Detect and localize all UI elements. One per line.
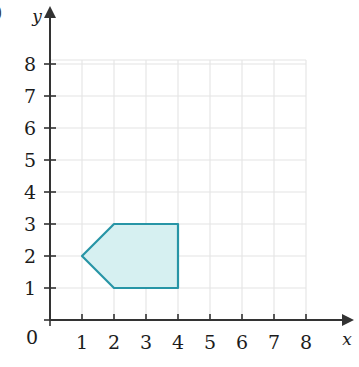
coordinate-grid-figure: 01234567812345678xy ) bbox=[0, 0, 359, 367]
y-tick-label-7: 7 bbox=[24, 85, 36, 107]
x-tick-label-3: 3 bbox=[140, 331, 152, 353]
x-axis-arrow-icon bbox=[342, 314, 354, 326]
y-axis-name: y bbox=[31, 6, 42, 26]
plotted-shapes bbox=[82, 224, 178, 288]
axis-tick-labels: 01234567812345678xy bbox=[24, 6, 352, 353]
x-tick-label-6: 6 bbox=[236, 331, 248, 353]
x-tick-label-8: 8 bbox=[300, 331, 312, 353]
x-axis-name: x bbox=[342, 329, 352, 349]
x-tick-label-5: 5 bbox=[204, 331, 216, 353]
x-tick-label-4: 4 bbox=[172, 331, 184, 353]
y-tick-label-5: 5 bbox=[24, 149, 36, 171]
shape-pentagon bbox=[82, 224, 178, 288]
y-tick-label-3: 3 bbox=[24, 213, 36, 235]
axes bbox=[44, 6, 354, 326]
y-tick-label-6: 6 bbox=[24, 117, 36, 139]
y-tick-label-4: 4 bbox=[24, 181, 36, 203]
y-tick-label-1: 1 bbox=[24, 277, 36, 299]
y-axis-arrow-icon bbox=[44, 6, 56, 18]
origin-label: 0 bbox=[26, 326, 38, 348]
plot-svg: 01234567812345678xy bbox=[0, 0, 359, 367]
x-tick-label-1: 1 bbox=[76, 331, 88, 353]
y-tick-label-2: 2 bbox=[24, 245, 36, 267]
y-tick-label-8: 8 bbox=[24, 53, 36, 75]
x-tick-label-7: 7 bbox=[268, 331, 280, 353]
svg-text:): ) bbox=[0, 3, 2, 22]
x-tick-label-2: 2 bbox=[108, 331, 120, 353]
figure-corner-mark: ) bbox=[0, 2, 14, 24]
